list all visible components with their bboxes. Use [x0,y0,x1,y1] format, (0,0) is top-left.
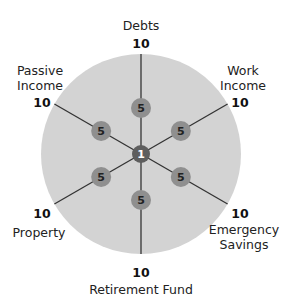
axis-name-line: Work [227,63,259,78]
axis-max-value: 10 [231,95,249,110]
axis-name-line: Property [13,225,66,240]
axis-label-property: 10Property [13,206,66,240]
axis-name-line: Income [220,78,266,93]
node-emergency-savings: 5 [171,167,191,187]
node-value: 5 [97,171,105,184]
axis-label-debts: 10Debts [123,18,160,51]
axis-max-value: 10 [132,36,150,51]
axis-label-retirement-fund: 10Retirement Fund [89,265,193,297]
axis-name-line: Retirement Fund [89,282,193,297]
axis-name-line: Savings [220,237,269,252]
axis-max-value: 10 [33,206,51,221]
node-debts: 5 [131,98,151,118]
axis-name-line: Emergency [209,222,280,237]
center-value: 1 [137,148,145,161]
axis-max-value: 10 [132,265,150,280]
axis-max-value: 10 [33,95,51,110]
node-value: 5 [177,171,185,184]
node-retirement-fund: 5 [131,190,151,210]
center-node: 1 [132,145,150,163]
node-value: 5 [177,125,185,138]
node-property: 5 [91,167,111,187]
node-value: 5 [137,194,145,207]
axis-name-line: Passive [17,63,64,78]
node-passive-income: 5 [91,121,111,141]
axis-name-line: Income [17,78,63,93]
node-value: 5 [97,125,105,138]
axis-max-value: 10 [231,206,249,221]
node-value: 5 [137,102,145,115]
financial-wheel-diagram: 555555 10Debts10WorkIncome10EmergencySav… [0,0,293,304]
node-work-income: 5 [171,121,191,141]
axis-name-line: Debts [123,18,160,33]
